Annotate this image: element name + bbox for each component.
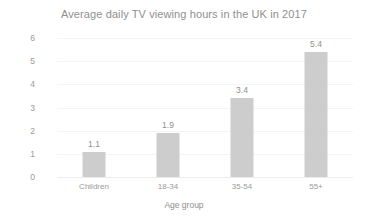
bar-chart: Average daily TV viewing hours in the UK… [0,0,368,221]
bar-value-label: 1.9 [162,120,174,130]
bar[interactable] [83,152,106,177]
bar-group: 5.455+ [279,38,353,177]
y-axis-tick-label: 6 [21,33,35,43]
gridline [57,177,353,178]
bar-group: 1.1Children [57,38,131,177]
x-axis-tick-label: 35-54 [232,182,252,191]
bar[interactable] [157,133,180,177]
x-axis-tick-label: Children [79,182,109,191]
y-axis-tick-label: 1 [21,149,35,159]
y-axis-tick-label: 5 [21,56,35,66]
x-axis-tick-label: 55+ [309,182,323,191]
bar-value-label: 1.1 [88,139,100,149]
bar-value-label: 5.4 [310,39,322,49]
y-axis-tick-label: 4 [21,79,35,89]
y-axis-tick-label: 2 [21,126,35,136]
plot-area: 65432101.1Children1.918-343.435-545.455+ [57,38,353,177]
chart-title: Average daily TV viewing hours in the UK… [0,8,368,20]
y-axis-tick-label: 3 [21,103,35,113]
x-axis-title: Age group [0,200,368,210]
bar[interactable] [305,52,328,177]
bar-group: 1.918-34 [131,38,205,177]
bar[interactable] [231,98,254,177]
bar-value-label: 3.4 [236,85,248,95]
x-axis-tick-label: 18-34 [158,182,178,191]
y-axis-tick-label: 0 [21,172,35,182]
bar-group: 3.435-54 [205,38,279,177]
